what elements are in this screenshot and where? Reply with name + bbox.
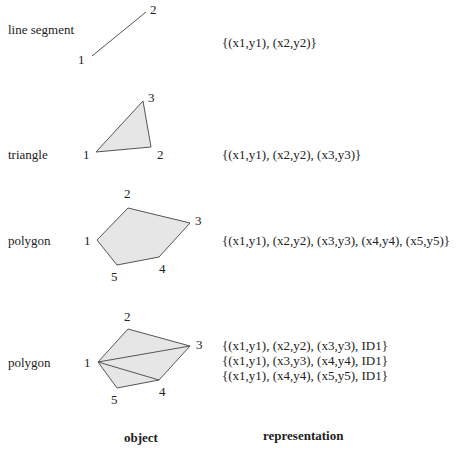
column-header-object: object (124, 430, 158, 446)
triangle-shape (96, 101, 151, 152)
object-label-triangulated-polygon: polygon (8, 355, 51, 371)
object-label-triangle: triangle (8, 147, 48, 163)
vertex-label-4: 4 (159, 384, 166, 400)
vertex-label-3: 3 (196, 337, 203, 353)
line-segment-shape (92, 12, 146, 56)
vertex-label-3: 3 (148, 90, 155, 106)
representation-triangle: {(x1,y1), (x2,y2), (x3,y3)} (222, 147, 361, 162)
representation-triangle-1: {(x1,y1), (x2,y2), (x3,y3), ID1} (222, 338, 388, 353)
vertex-label-1: 1 (83, 147, 90, 163)
vertex-label-1: 1 (78, 52, 85, 68)
vertex-label-1: 1 (84, 355, 91, 371)
vertex-label-5: 5 (111, 392, 118, 408)
column-header-representation: representation (263, 428, 343, 444)
representation-triangle-3: {(x1,y1), (x4,y4), (x5,y5), ID1} (222, 368, 388, 383)
representation-polygon: {(x1,y1), (x2,y2), (x3,y3), (x4,y4), (x5… (222, 233, 450, 248)
vertex-label-5: 5 (111, 269, 118, 285)
representation-line-segment: {(x1,y1), (x2,y2)} (222, 35, 317, 50)
representation-triangle-2: {(x1,y1), (x3,y3), (x4,y4), ID1} (222, 353, 388, 368)
vertex-label-2: 2 (157, 147, 164, 163)
object-label-polygon: polygon (8, 233, 51, 249)
vertex-label-2: 2 (150, 2, 157, 18)
vertex-label-2: 2 (124, 186, 131, 202)
vertex-label-2: 2 (124, 309, 131, 325)
object-label-line-segment: line segment (8, 22, 74, 38)
polygon-shape (97, 208, 190, 265)
vertex-label-3: 3 (195, 213, 202, 229)
vertex-label-4: 4 (159, 261, 166, 277)
vertex-label-1: 1 (84, 233, 91, 249)
triangulated-polygon-shape (98, 329, 190, 388)
